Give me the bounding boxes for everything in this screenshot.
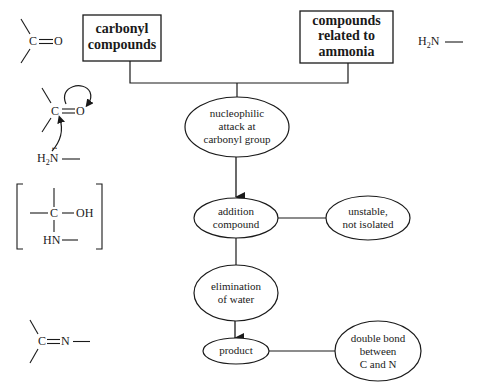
lone-pair-dots: ··: [51, 141, 57, 156]
elimination-node-label: elimination of water: [194, 280, 278, 306]
diagram-canvas: [0, 0, 482, 387]
carbonyl-compounds-label: carbonyl compounds: [83, 21, 161, 53]
intermediate-oh-group: OH: [76, 206, 93, 221]
amine-label: H2N: [418, 34, 439, 50]
intermediate-c-atom: C: [50, 206, 58, 221]
intermediate-hn-group: HN: [43, 233, 60, 248]
unstable-node-label: unstable, not isolated: [326, 205, 410, 231]
carbonyl-o-atom: O: [54, 34, 63, 49]
mechanism-o-atom: O: [76, 104, 85, 119]
product-node-label: product: [203, 344, 269, 357]
box-connector: [130, 61, 348, 97]
carbonyl-c-atom: C: [29, 34, 37, 49]
ammonia-compounds-label: compounds related to ammonia: [300, 13, 393, 59]
attack-node-label: nucleophilic attack at carbonyl group: [185, 107, 289, 147]
mechanism-c-atom: C: [51, 104, 59, 119]
double-bond-node-label: double bond between C and N: [335, 332, 421, 372]
imine-n-atom: N: [61, 334, 70, 349]
imine-c-atom: C: [38, 334, 46, 349]
addition-node-label: addition compound: [194, 205, 278, 231]
curved-arrow-o-icon: [64, 86, 91, 104]
